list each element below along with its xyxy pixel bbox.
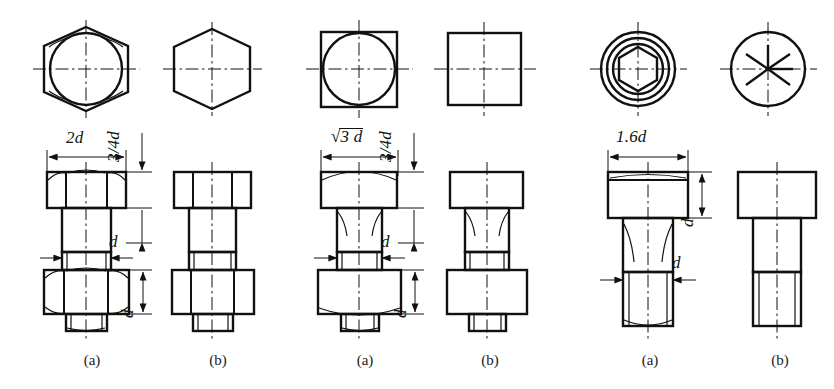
- square-bolt-top-view-a: [306, 20, 413, 118]
- square-bolt-top-view-b: [434, 22, 536, 116]
- caption-socket-b: (b): [771, 352, 789, 369]
- technical-drawing-sheet: .o { fill:none; stroke:#111; stroke-widt…: [0, 0, 834, 389]
- dim-square-34d: [398, 133, 424, 243]
- radical-icon: √3 d: [330, 127, 362, 147]
- label-socket-16d: 1.6d: [616, 127, 647, 147]
- socket-screw-front-view-a: [608, 162, 688, 340]
- label-hex-d-shank: d: [109, 232, 118, 252]
- dim-square-d-nut: [401, 270, 424, 314]
- caption-socket-a: (a): [642, 352, 659, 369]
- label-square-d-nut: d: [391, 309, 411, 318]
- socket-screw-front-view-b: [738, 162, 816, 340]
- caption-square-b: (b): [481, 352, 499, 369]
- label-square-root3d: √3 d: [330, 127, 362, 147]
- label-square-34d: 3/4d: [376, 131, 396, 162]
- hex-bolt-top-view-b: [163, 22, 262, 116]
- socket-screw-top-view-b: [720, 22, 817, 116]
- label-hex-34d: 3/4d: [104, 131, 124, 162]
- socket-screw-top-view-a: [590, 22, 687, 116]
- label-square-d-shank: d: [381, 232, 390, 252]
- dim-hex-d-nut: [129, 270, 152, 314]
- label-hex-2d: 2d: [66, 128, 83, 148]
- dim-socket-d-head: [688, 172, 712, 218]
- hex-bolt-top-view-a: [33, 20, 140, 118]
- caption-square-a: (a): [357, 352, 374, 369]
- hex-bolt-front-view-b: [172, 162, 254, 342]
- label-socket-d-head: d: [678, 218, 698, 227]
- caption-hex-b: (b): [209, 352, 227, 369]
- dim-hex-34d: [126, 133, 152, 243]
- label-socket-d-shank: d: [672, 253, 681, 273]
- square-bolt-front-view-a: [318, 162, 401, 342]
- hex-bolt-front-view-a: [44, 162, 129, 342]
- drawing-canvas: .o { fill:none; stroke:#111; stroke-widt…: [0, 0, 834, 389]
- caption-row: (a) (b) (a) (b) (a) (b): [0, 352, 834, 382]
- square-bolt-front-view-b: [447, 162, 527, 342]
- label-hex-d-nut: d: [118, 309, 138, 318]
- caption-hex-a: (a): [84, 352, 101, 369]
